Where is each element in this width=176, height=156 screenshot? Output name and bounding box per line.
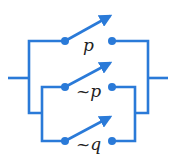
switch-label-not-p: ~p [76, 83, 101, 100]
switch-label-p: p [83, 37, 94, 54]
outer-right-wire [112, 41, 148, 113]
switch-label-not-q: ~q [76, 136, 101, 153]
switching-circuit-diagram: p ~p ~q [0, 0, 176, 156]
outer-left-wire [29, 41, 65, 113]
inner-right-wire [112, 87, 135, 141]
inner-left-wire [42, 87, 65, 141]
circuit-wires [0, 0, 176, 156]
